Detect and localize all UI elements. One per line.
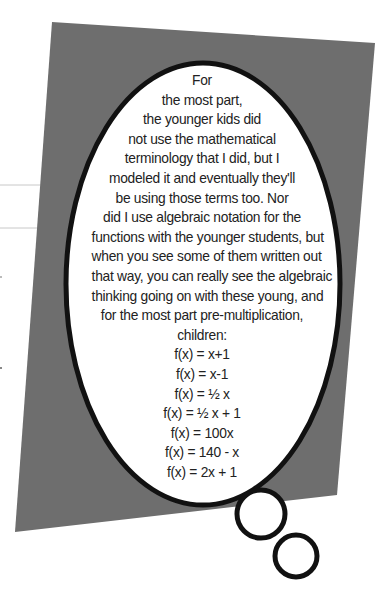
paragraph-line: the younger kids did — [92, 109, 313, 129]
paragraph-line: not use the mathematical — [92, 129, 313, 149]
paragraph-line: children: — [92, 325, 313, 345]
function-list: f(x) = x+1 f(x) = x-1 f(x) = ½ x f(x) = … — [92, 344, 313, 481]
function-formula: f(x) = 140 - x — [92, 442, 313, 462]
function-formula: f(x) = x-1 — [92, 364, 313, 384]
paragraph-line: terminology that I did, but I — [92, 148, 313, 168]
function-formula: f(x) = 100x — [92, 423, 313, 443]
margin-mark-2 — [0, 367, 2, 369]
paragraph-line: when you see some of them written out — [92, 246, 313, 266]
paragraph-line: did I use algebraic notation for the — [92, 207, 313, 227]
paragraph-line: be using those terms too. Nor — [92, 188, 313, 208]
function-formula: f(x) = ½ x — [92, 384, 313, 404]
paragraph-line: thinking going on with these young, and — [92, 286, 313, 306]
thought-bubble-text: For the most part, the younger kids did … — [92, 70, 313, 481]
margin-mark-1 — [0, 276, 2, 278]
page-canvas: For the most part, the younger kids did … — [0, 0, 391, 602]
function-formula: f(x) = x+1 — [92, 344, 313, 364]
thought-bubble-circle-large — [237, 490, 285, 538]
function-formula: f(x) = 2x + 1 — [92, 462, 313, 482]
paragraph-line: for the most part pre-multiplication, — [92, 305, 313, 325]
function-formula: f(x) = ½ x + 1 — [92, 403, 313, 423]
paragraph-line: the most part, — [92, 90, 313, 110]
paragraph-line: For — [92, 70, 313, 90]
paragraph-line: modeled it and eventually they'll — [92, 168, 313, 188]
paragraph-line: that way, you can really see the algebra… — [92, 266, 313, 286]
thought-bubble-circle-small — [275, 535, 317, 577]
paragraph-line: functions with the younger students, but — [92, 227, 313, 247]
